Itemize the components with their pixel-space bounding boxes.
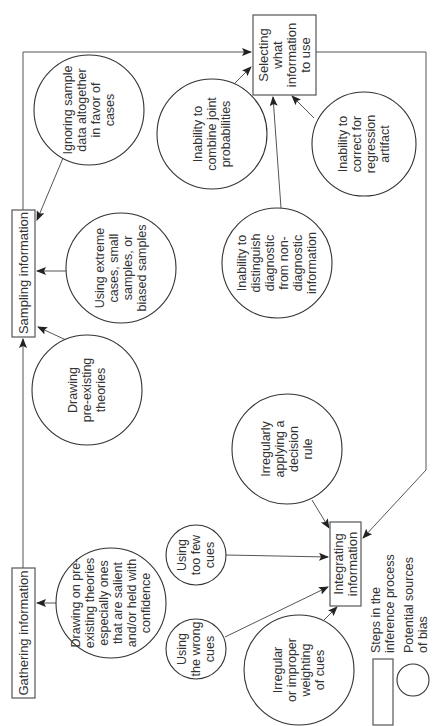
svg-text:that are salient: that are salient [111, 561, 125, 644]
svg-text:distinguish: distinguish [249, 233, 263, 292]
svg-text:in favor of: in favor of [89, 82, 103, 137]
svg-text:combine joint: combine joint [205, 97, 219, 171]
svg-text:data altogether: data altogether [75, 68, 89, 151]
bias-improper-weighting: Irregular or improper weighting of cues [244, 615, 354, 725]
bias-drawing-salient: Drawing on pre- existing theories especi… [56, 548, 166, 658]
svg-text:correct for: correct for [350, 116, 364, 172]
svg-text:information: information [345, 532, 360, 596]
svg-text:Irregularly: Irregularly [259, 420, 273, 476]
bias-using-extreme: Using extreme cases, small samples, or b… [66, 213, 176, 323]
svg-text:of cues: of cues [313, 650, 327, 690]
svg-text:Using: Using [175, 633, 189, 665]
svg-text:or improper: or improper [285, 638, 299, 702]
svg-text:Potential sources: Potential sources [402, 557, 416, 653]
svg-text:inference process: inference process [383, 554, 397, 653]
step-gathering: Gathering information [12, 568, 35, 698]
legend-steps-label: Steps in the inference process [369, 554, 397, 653]
bias-drawing-theories: Drawing pre-existing theories [32, 335, 142, 445]
svg-text:samples, or: samples, or [121, 236, 135, 301]
bias-combine-joint: Inability to combine joint probabilities [157, 79, 267, 189]
inference-bias-diagram: Gathering information Sampling informati… [0, 0, 442, 726]
step-gathering-label: Gathering information [16, 570, 31, 695]
svg-text:Inability to: Inability to [336, 116, 350, 172]
svg-text:Irregular: Irregular [271, 647, 285, 694]
svg-text:to use: to use [298, 37, 313, 72]
step-integrating: Integrating information [330, 522, 361, 606]
svg-text:applying a: applying a [273, 420, 287, 477]
svg-text:probabilities: probabilities [219, 101, 233, 168]
svg-text:information: information [305, 232, 319, 294]
svg-text:Selecting: Selecting [256, 28, 271, 81]
svg-text:confidence: confidence [139, 573, 153, 634]
arrow-distinguish-to-selecting [273, 97, 281, 208]
svg-text:Ignoring sample: Ignoring sample [61, 65, 75, 154]
svg-text:especially ones: especially ones [97, 560, 111, 645]
svg-text:Drawing on pre-: Drawing on pre- [69, 559, 83, 648]
arrow-theories-to-sampling [38, 327, 66, 340]
legend-step-swatch [373, 659, 393, 725]
svg-text:cues: cues [203, 636, 217, 662]
step-integrating-label: Integrating information [331, 532, 360, 596]
svg-text:theories: theories [94, 368, 108, 412]
svg-text:Using extreme: Using extreme [93, 228, 107, 309]
svg-text:weighting: weighting [299, 644, 313, 698]
bias-regression-artifact: Inability to correct for regression arti… [312, 92, 416, 196]
svg-text:rule: rule [301, 439, 315, 460]
svg-text:of bias: of bias [416, 616, 430, 653]
arrow-weighting-to-integrating [322, 607, 337, 622]
svg-text:regression: regression [364, 115, 378, 173]
svg-text:cases, small: cases, small [107, 234, 121, 303]
svg-text:information: information [284, 23, 299, 87]
legend-sources-label: Potential sources of bias [402, 557, 430, 653]
svg-text:cues: cues [203, 542, 217, 568]
svg-text:cases: cases [103, 94, 117, 127]
svg-text:diagnostic: diagnostic [291, 235, 305, 291]
bias-ignoring-sample: Ignoring sample data altogether in favor… [34, 55, 144, 165]
svg-text:decision: decision [287, 426, 301, 472]
bias-decision-rule: Irregularly applying a decision rule [232, 394, 342, 504]
arrow-toofew-to-integrating [226, 555, 328, 557]
bias-too-few-cues: Using too few cues [166, 525, 226, 585]
step-sampling: Sampling information [12, 210, 35, 337]
svg-text:Inability to: Inability to [235, 235, 249, 291]
svg-text:diagnostic: diagnostic [263, 235, 277, 291]
svg-text:biased samples: biased samples [135, 225, 149, 312]
svg-text:pre-existing: pre-existing [80, 358, 94, 423]
svg-text:Integrating: Integrating [331, 533, 346, 594]
arrow-combine-to-selecting [233, 67, 251, 85]
legend: Steps in the inference process Potential… [369, 554, 430, 725]
step-sampling-label: Sampling information [16, 212, 31, 334]
bias-distinguish-diagnostic: Inability to distinguish diagnostic from… [222, 208, 332, 318]
svg-text:Drawing: Drawing [66, 367, 80, 413]
svg-text:the wrong: the wrong [189, 622, 203, 677]
legend-bias-swatch [397, 664, 429, 696]
arrow-regression-to-selecting [292, 96, 314, 118]
svg-text:and/or held with: and/or held with [125, 559, 139, 647]
svg-text:existing theories: existing theories [83, 558, 97, 648]
arrow-ignoring-to-sampling [37, 158, 63, 220]
svg-text:Using: Using [175, 539, 189, 571]
arrow-decisionrule-to-integrating [312, 500, 329, 528]
svg-text:from non-: from non- [277, 236, 291, 290]
svg-text:too few: too few [189, 534, 203, 575]
svg-text:Steps in the: Steps in the [369, 587, 383, 653]
bias-wrong-cues: Using the wrong cues [166, 619, 226, 679]
svg-text:Inability to: Inability to [191, 106, 205, 162]
svg-text:artifact: artifact [378, 125, 392, 163]
svg-text:what: what [270, 41, 285, 70]
step-selecting: Selecting what information to use [253, 15, 316, 95]
